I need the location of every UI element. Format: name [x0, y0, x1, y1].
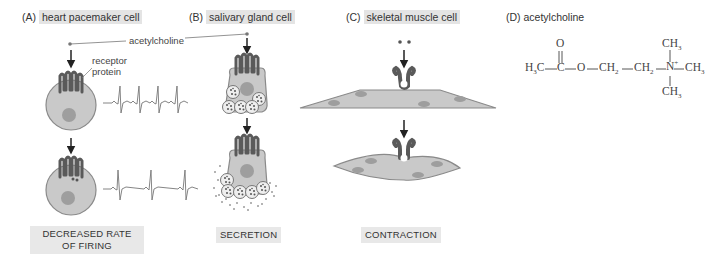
- pacemaker-cell-after: [46, 138, 96, 215]
- chem-h3c: H3C: [525, 61, 544, 76]
- chem-ch2-1: CH2: [599, 61, 618, 76]
- salivary-cell-after: [213, 118, 277, 211]
- muscle-cell-after: [334, 120, 460, 180]
- outcome-a-line2: OF FIRING: [34, 240, 140, 252]
- ecg-trace-fast: [103, 86, 188, 113]
- muscle-cell-before: [300, 40, 496, 108]
- chem-ester-o: O: [577, 61, 585, 73]
- chem-ch3-right: CH3: [685, 61, 704, 76]
- outcome-decreased-firing: DECREASED RATE OF FIRING: [30, 226, 144, 254]
- outcome-b-line1: SECRETION: [220, 229, 277, 241]
- acetylcholine-line: [68, 32, 249, 46]
- chem-n-plus: N+: [666, 59, 678, 72]
- pacemaker-cell-before: [46, 50, 96, 130]
- chem-ch2-2: CH2: [634, 61, 653, 76]
- outcome-c-line1: CONTRACTION: [365, 229, 437, 241]
- chem-carbonyl-o: O: [556, 37, 564, 49]
- chem-carbon: C: [557, 61, 565, 73]
- chem-ch3-top: CH3: [662, 37, 681, 52]
- salivary-cell-before: [223, 38, 268, 114]
- chem-ch3-bottom: CH3: [662, 85, 681, 100]
- outcome-contraction: CONTRACTION: [361, 227, 441, 243]
- outcome-secretion: SECRETION: [216, 227, 281, 243]
- diagram-artwork: [0, 0, 718, 254]
- ecg-trace-slow: [103, 170, 198, 200]
- outcome-a-line1: DECREASED RATE: [34, 228, 140, 240]
